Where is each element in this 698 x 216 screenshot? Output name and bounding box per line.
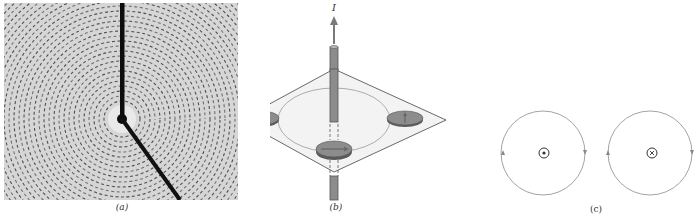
arrow-head-icon xyxy=(330,16,338,25)
compass-right xyxy=(387,111,423,127)
arrow-down-icon xyxy=(583,150,587,155)
arrow-up-icon xyxy=(501,150,505,155)
circle-current-out xyxy=(501,111,587,195)
panel-c-field-lines xyxy=(500,110,698,200)
circle-current-in xyxy=(606,111,694,195)
compass-diagram xyxy=(270,0,450,216)
wire-lower xyxy=(330,176,338,200)
panel-b-compass-diagram xyxy=(270,0,450,216)
caption-a: (a) xyxy=(110,202,134,212)
caption-c: (c) xyxy=(584,204,608,214)
arrow-down-icon xyxy=(690,150,694,155)
wire-top xyxy=(120,3,125,119)
compass-front xyxy=(316,141,352,160)
panel-a-iron-filings xyxy=(4,3,238,200)
iron-filings-image xyxy=(4,3,238,200)
field-lines-diagram xyxy=(500,110,698,200)
caption-b: (b) xyxy=(324,202,348,212)
arrow-up-icon xyxy=(606,150,610,155)
current-label: I xyxy=(330,2,338,13)
